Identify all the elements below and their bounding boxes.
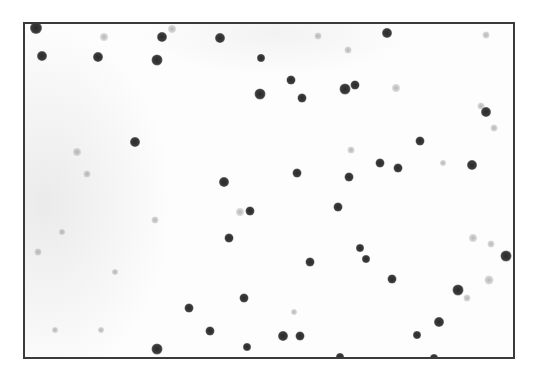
stained-cell-dot	[219, 177, 229, 187]
stained-cell-dot	[388, 275, 397, 284]
stained-cell-dot	[30, 22, 42, 34]
stained-cell-dot	[306, 258, 315, 267]
faint-particle	[35, 249, 42, 256]
faint-particle	[84, 171, 91, 178]
stained-cell-dot	[257, 54, 265, 62]
stained-cell-dot	[351, 81, 360, 90]
faint-particle	[52, 327, 58, 333]
stained-cell-dot	[243, 343, 251, 351]
faint-particle	[168, 25, 176, 33]
stained-cell-dot	[246, 207, 255, 216]
stained-cell-dot	[240, 294, 249, 303]
stained-cell-dot	[501, 251, 512, 262]
faint-particle	[348, 147, 355, 154]
faint-particle	[464, 295, 471, 302]
faint-particle	[98, 327, 104, 333]
stained-cell-dot	[37, 51, 47, 61]
stained-cell-dot	[362, 255, 370, 263]
microscopy-field	[23, 22, 515, 359]
stained-cell-dot	[467, 160, 477, 170]
stained-cell-dot	[293, 169, 302, 178]
stained-cell-dot	[298, 94, 307, 103]
faint-particle	[236, 208, 244, 216]
faint-particle	[469, 234, 477, 242]
stained-cell-dot	[93, 52, 103, 62]
stained-cell-dot	[185, 304, 194, 313]
stained-cell-dot	[394, 164, 403, 173]
stained-cell-dot	[287, 76, 296, 85]
stained-cell-dot	[255, 89, 266, 100]
faint-particle	[73, 148, 81, 156]
stained-cell-dot	[376, 159, 385, 168]
faint-particle	[491, 125, 498, 132]
faint-particle	[440, 160, 446, 166]
stained-cell-dot	[152, 55, 163, 66]
faint-particle	[485, 276, 494, 285]
faint-particle	[59, 229, 65, 235]
faint-particle	[291, 309, 297, 315]
stained-cell-dot	[152, 344, 163, 355]
stained-cell-dot	[215, 33, 225, 43]
faint-particle	[152, 217, 159, 224]
stained-cell-dot	[416, 137, 425, 146]
stained-cell-dot	[413, 331, 421, 339]
faint-particle	[392, 84, 400, 92]
stained-cell-dot	[336, 353, 344, 359]
stained-cell-dot	[225, 234, 234, 243]
stained-cell-dot	[453, 285, 464, 296]
faint-particle	[315, 33, 322, 40]
faint-particle	[112, 269, 118, 275]
stained-cell-dot	[206, 327, 215, 336]
faint-particle	[488, 241, 495, 248]
stained-cell-dot	[130, 137, 140, 147]
stained-cell-dot	[481, 107, 491, 117]
faint-particle	[345, 47, 352, 54]
faint-particle	[100, 33, 108, 41]
stained-cell-dot	[430, 354, 438, 359]
stained-cell-dot	[434, 317, 444, 327]
stained-cell-dot	[296, 332, 305, 341]
stained-cell-dot	[340, 84, 351, 95]
stained-cell-dot	[278, 331, 288, 341]
faint-particle	[483, 32, 490, 39]
stained-cell-dot	[382, 28, 392, 38]
stained-cell-dot	[157, 32, 167, 42]
stained-cell-dot	[356, 244, 364, 252]
stained-cell-dot	[334, 203, 343, 212]
stained-cell-dot	[345, 173, 354, 182]
